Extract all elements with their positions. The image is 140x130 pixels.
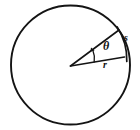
figure-root: θ s r (0, 0, 140, 130)
diagram-background (0, 0, 140, 130)
radius-label: r (103, 59, 107, 70)
circle-sector-diagram: θ s r (0, 0, 140, 130)
arc-length-label: s (123, 32, 128, 43)
theta-label: θ (103, 39, 110, 53)
